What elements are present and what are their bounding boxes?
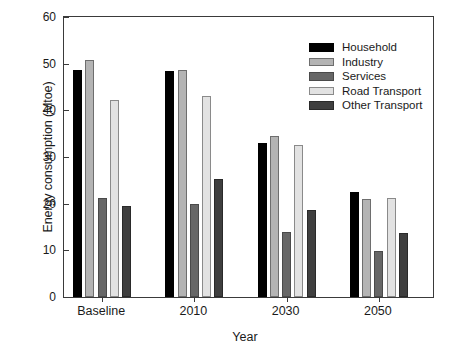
bar (387, 198, 396, 297)
legend-swatch-icon (309, 72, 334, 81)
bar (85, 60, 94, 297)
y-tick-label: 0 (24, 290, 56, 304)
y-tick-label: 40 (24, 103, 56, 117)
bar (282, 232, 291, 297)
plot-area: 0102030405060 HouseholdIndustryServicesR… (63, 16, 434, 298)
legend-item: Industry (309, 55, 423, 70)
bar (202, 96, 211, 297)
bar (362, 199, 371, 297)
bar (98, 198, 107, 297)
bar (178, 70, 187, 297)
x-tick-mark (102, 297, 103, 302)
x-tick-mark (287, 297, 288, 302)
legend-label: Road Transport (342, 84, 421, 99)
y-tick-mark (64, 157, 69, 158)
legend-label: Services (342, 69, 386, 84)
x-tick-mark (379, 297, 380, 302)
bar (399, 233, 408, 297)
y-tick-mark (64, 110, 69, 111)
bar (122, 206, 131, 297)
legend-swatch-icon (309, 101, 334, 110)
bar (165, 71, 174, 297)
y-tick-mark (64, 204, 69, 205)
legend-swatch-icon (309, 87, 334, 96)
bar (73, 70, 82, 297)
x-tick-mark (194, 297, 195, 302)
x-tick-label: 2010 (148, 304, 238, 318)
bar (270, 136, 279, 297)
y-tick-mark (64, 17, 69, 18)
chart-legend: HouseholdIndustryServicesRoad TransportO… (309, 40, 423, 113)
y-tick-mark (64, 64, 69, 65)
y-tick-label: 30 (24, 150, 56, 164)
legend-swatch-icon (309, 43, 334, 52)
x-tick-label: 2050 (333, 304, 423, 318)
legend-item: Road Transport (309, 84, 423, 99)
bar (214, 179, 223, 297)
legend-swatch-icon (309, 58, 334, 67)
bar (190, 204, 199, 297)
x-axis-title: Year (55, 330, 435, 344)
bar (307, 210, 316, 297)
bar (294, 145, 303, 297)
bar (110, 100, 119, 297)
legend-label: Other Transport (342, 98, 423, 113)
legend-label: Industry (342, 55, 383, 70)
y-tick-label: 20 (24, 197, 56, 211)
bar (258, 143, 267, 297)
y-tick-label: 60 (24, 10, 56, 24)
x-tick-label: 2030 (241, 304, 331, 318)
legend-item: Household (309, 40, 423, 55)
legend-item: Other Transport (309, 98, 423, 113)
x-tick-label: Baseline (56, 304, 146, 318)
legend-label: Household (342, 40, 397, 55)
bar (350, 192, 359, 297)
y-tick-label: 10 (24, 243, 56, 257)
chart-figure: Energy consumption (Mtoe) 0102030405060 … (0, 0, 450, 357)
y-tick-label: 50 (24, 57, 56, 71)
y-tick-mark (64, 297, 69, 298)
legend-item: Services (309, 69, 423, 84)
y-tick-mark (64, 250, 69, 251)
bar (374, 251, 383, 297)
